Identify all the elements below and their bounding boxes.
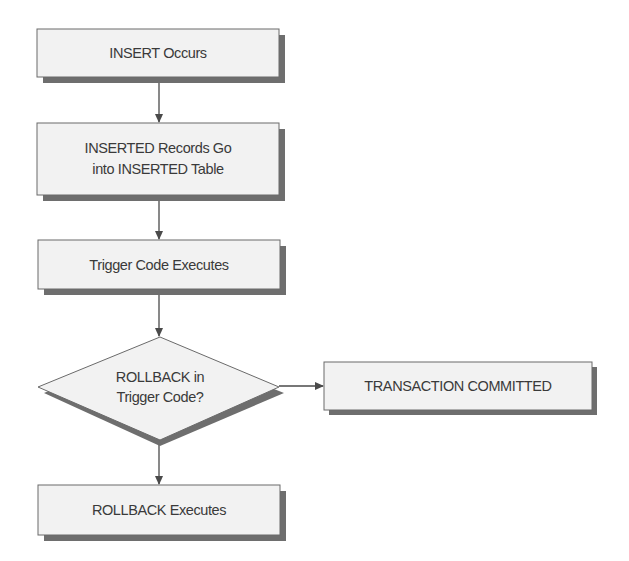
node-label-line-1: INSERTED Records Go <box>85 140 232 156</box>
node-label: TRANSACTION COMMITTED <box>364 378 551 394</box>
node-trigger-executes: Trigger Code Executes <box>38 240 286 295</box>
node-label: Trigger Code Executes <box>89 257 229 273</box>
node-label-line-1: ROLLBACK in <box>116 369 205 385</box>
node-label: ROLLBACK Executes <box>92 502 226 518</box>
flowchart-svg: INSERT Occurs INSERTED Records Go into I… <box>0 0 629 561</box>
node-rollback-executes: ROLLBACK Executes <box>38 485 286 541</box>
node-insert-occurs: INSERT Occurs <box>37 29 285 83</box>
flowchart-canvas: INSERT Occurs INSERTED Records Go into I… <box>0 0 629 561</box>
node-box <box>37 123 279 195</box>
node-label-line-2: into INSERTED Table <box>92 161 224 177</box>
node-transaction-committed: TRANSACTION COMMITTED <box>324 362 597 415</box>
node-label: INSERT Occurs <box>109 45 207 61</box>
node-inserted-records: INSERTED Records Go into INSERTED Table <box>37 123 285 201</box>
node-label-line-2: Trigger Code? <box>117 389 204 405</box>
node-rollback-decision: ROLLBACK in Trigger Code? <box>38 337 284 446</box>
